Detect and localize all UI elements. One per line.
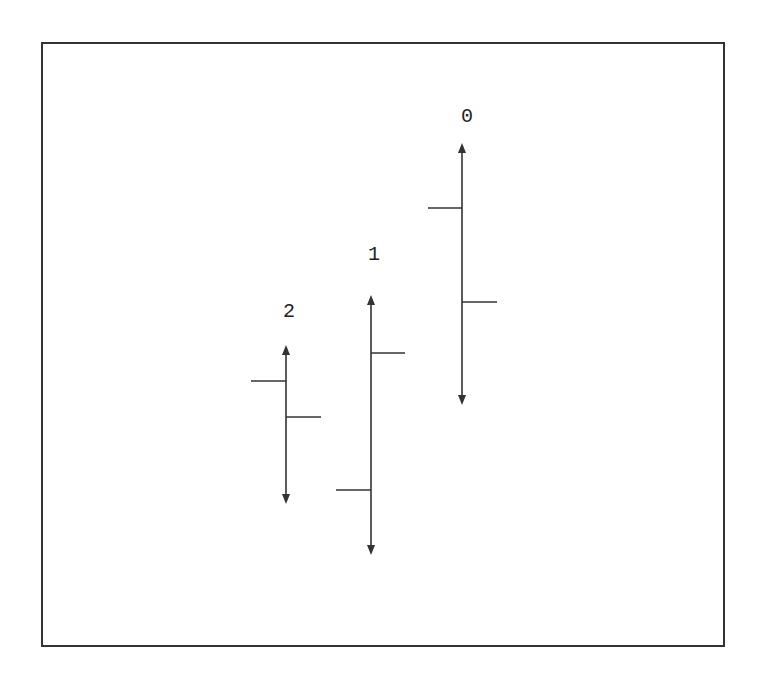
range-glyph-2 xyxy=(251,345,321,504)
diagram-canvas: 012 xyxy=(0,0,760,679)
arrow-down-icon xyxy=(458,395,466,405)
arrow-up-icon xyxy=(282,345,290,355)
glyph-layer xyxy=(0,0,760,679)
glyph-label: 2 xyxy=(283,302,295,322)
arrow-up-icon xyxy=(458,143,466,153)
arrow-down-icon xyxy=(367,545,375,555)
glyph-label: 1 xyxy=(368,245,380,265)
arrow-down-icon xyxy=(282,494,290,504)
range-glyph-0 xyxy=(428,143,497,405)
glyph-label: 0 xyxy=(461,107,473,127)
arrow-up-icon xyxy=(367,295,375,305)
range-glyph-1 xyxy=(336,295,405,555)
